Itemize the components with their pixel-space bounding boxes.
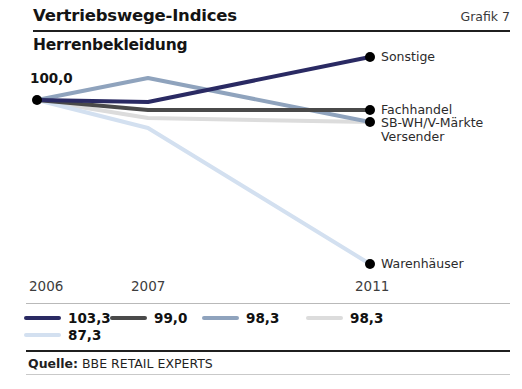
chart-legend: 103,399,098,398,387,3: [24, 309, 424, 343]
series-line-fachhandel: [37, 100, 370, 110]
legend-value: 98,3: [246, 310, 279, 326]
series-line-sonstige: [37, 57, 370, 102]
source-prefix: Quelle:: [28, 356, 78, 371]
series-line-warenhaeuser: [37, 100, 370, 264]
legend-value: 87,3: [68, 327, 101, 343]
legend-value: 99,0: [154, 310, 187, 326]
series-line-sbwh: [37, 78, 370, 122]
chart-page: Vertriebswege-Indices Grafik 7 Herrenbek…: [0, 0, 522, 389]
page-title: Vertriebswege-Indices: [33, 6, 237, 25]
marker-sbwh: [365, 117, 375, 127]
legend-divider-top: [26, 303, 510, 304]
legend-value: 103,3: [68, 310, 111, 326]
legend-swatch-icon: [110, 316, 147, 320]
source-text: BBE RETAIL EXPERTS: [78, 356, 213, 371]
source-divider: [26, 374, 510, 375]
baseline-value-label: 100,0: [30, 70, 73, 86]
series-label-versender: Versender: [381, 130, 444, 144]
series-label-warenhaeuser: Warenhäuser: [381, 257, 464, 271]
series-line-versender: [37, 100, 370, 122]
series-label-sonstige: Sonstige: [381, 50, 435, 64]
header-divider: [33, 30, 510, 32]
chart-header: Vertriebswege-Indices Grafik 7: [33, 6, 510, 30]
legend-value: 98,3: [350, 310, 383, 326]
legend-swatch-icon: [306, 316, 343, 320]
x-axis: 2006 2007 2011: [0, 278, 522, 298]
legend-swatch-icon: [24, 316, 61, 320]
legend-item: 103,3: [24, 309, 106, 326]
chart-subtitle: Herrenbekleidung: [33, 36, 187, 54]
legend-swatch-icon: [202, 316, 239, 320]
marker-fachhandel: [365, 105, 375, 115]
legend-swatch-icon: [24, 333, 61, 337]
figure-number: Grafik 7: [460, 9, 510, 24]
legend-item: 98,3: [202, 309, 302, 326]
legend-item: 87,3: [24, 326, 112, 343]
marker-origin: [32, 95, 42, 105]
x-axis-tick-2006: 2006: [29, 278, 63, 294]
marker-sonstige: [365, 52, 375, 62]
legend-item: 98,3: [306, 309, 388, 326]
legend-item: 99,0: [110, 309, 198, 326]
source-note: Quelle: BBE RETAIL EXPERTS: [28, 356, 213, 371]
series-label-sbwh: SB-WH/V-Märkte: [381, 116, 483, 130]
marker-warenhaeuser: [365, 259, 375, 269]
legend-divider-bottom: [26, 350, 510, 352]
x-axis-tick-2007: 2007: [131, 278, 165, 294]
x-axis-tick-2011: 2011: [355, 278, 389, 294]
